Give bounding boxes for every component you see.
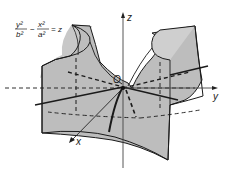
svg-text:x²: x² xyxy=(37,20,45,29)
y-axis-label: y xyxy=(212,91,219,102)
y-axis-arrow-icon xyxy=(212,86,218,90)
surface-right-bottom-edge xyxy=(168,96,203,160)
origin-label: O xyxy=(113,74,121,85)
svg-text:−: − xyxy=(30,25,35,34)
z-axis-label: z xyxy=(126,12,132,23)
z-axis-arrow-icon xyxy=(121,12,125,18)
svg-text:a²: a² xyxy=(38,30,45,39)
surface-equation: y² b² − x² a² = z xyxy=(15,20,62,39)
svg-text:y²: y² xyxy=(15,20,23,29)
x-axis-label: x xyxy=(75,136,82,147)
svg-text:b²: b² xyxy=(16,30,23,39)
origin-point xyxy=(121,86,125,90)
saddle-diagram: z y x O y² b² − x² a² = z xyxy=(0,0,232,175)
svg-text:= z: = z xyxy=(51,25,62,34)
saddle-surface-figure: z y x O y² b² − x² a² = z xyxy=(0,0,232,175)
